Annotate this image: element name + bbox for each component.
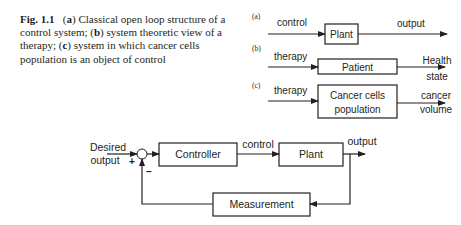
diagram-a-input-label: control xyxy=(277,17,307,28)
block-diagrams: (a) control Plant output (b) therapy Pat… xyxy=(0,0,461,225)
diagram-b-patient-label: Patient xyxy=(342,62,373,73)
diagram-c-block-label-line2: population xyxy=(334,104,380,115)
plant-label: Plant xyxy=(299,148,323,160)
diagram-b-therapy: (b) therapy Patient Health state xyxy=(252,44,451,82)
diagram-c-output-label-line1: cancer xyxy=(421,90,452,101)
diagram-c-input-label: therapy xyxy=(274,85,307,96)
minus-sign: − xyxy=(146,166,152,177)
diagram-c-tag: (c) xyxy=(252,81,261,90)
feedback-loop-diagram: Desired output + − Controller control Pl… xyxy=(90,135,377,216)
feedback-to-measurement-arrow xyxy=(310,154,350,204)
diagram-b-input-label: therapy xyxy=(274,51,307,62)
output-label: output xyxy=(347,135,376,147)
reference-label-line2: output xyxy=(90,154,119,166)
diagram-c-cancer-cells: (c) therapy Cancer cells population canc… xyxy=(252,81,453,118)
diagram-a-open-loop: (a) control Plant output xyxy=(252,12,447,44)
diagram-a-output-label: output xyxy=(397,18,425,29)
diagram-b-output-label-line2: state xyxy=(426,71,448,82)
diagram-a-plant-label: Plant xyxy=(330,29,353,40)
diagram-b-tag: (b) xyxy=(252,44,261,53)
controller-label: Controller xyxy=(175,148,221,160)
diagram-a-tag: (a) xyxy=(252,12,261,21)
reference-label-line1: Desired xyxy=(90,141,126,153)
measurement-label: Measurement xyxy=(229,198,293,210)
diagram-b-output-label-line1: Health xyxy=(423,55,452,66)
control-label: control xyxy=(242,138,274,150)
diagram-c-block-label-line1: Cancer cells xyxy=(330,90,385,101)
plus-sign: + xyxy=(129,156,135,167)
summing-junction xyxy=(137,149,147,159)
diagram-c-output-label-line2: volume xyxy=(420,104,453,115)
